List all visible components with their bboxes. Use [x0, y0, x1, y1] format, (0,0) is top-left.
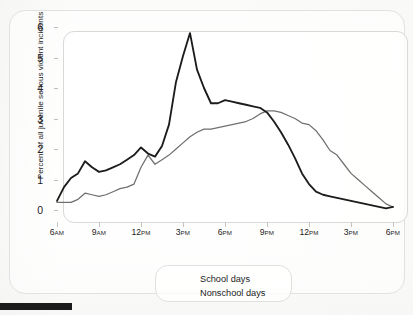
y-tick-mark — [54, 58, 58, 59]
y-tick-mark — [54, 149, 58, 150]
y-tick-mark — [54, 119, 58, 120]
y-tick-label: 2 — [17, 143, 43, 155]
x-tick-mark — [225, 222, 226, 227]
figure-page: Percent of all juvenile serious violent … — [0, 0, 413, 315]
legend-label-school-days: School days — [200, 274, 250, 284]
legend-item-school-days: School days — [169, 272, 250, 285]
x-tick-label: 9PM — [260, 227, 274, 237]
y-tick-mark — [54, 210, 58, 211]
legend-label-nonschool-days: Nonschool days — [200, 288, 265, 298]
y-tick-mark — [54, 180, 58, 181]
y-tick-label: 0 — [17, 204, 43, 216]
plot-frame — [63, 31, 408, 223]
y-tick-label: 3 — [17, 113, 43, 125]
x-tick-mark — [309, 222, 310, 227]
y-tick-label: 1 — [17, 174, 43, 186]
x-tick-mark — [267, 222, 268, 227]
x-tick-mark — [57, 222, 58, 227]
y-tick-label: 6 — [17, 21, 43, 33]
x-tick-label: 6AM — [50, 227, 64, 237]
x-tick-mark — [141, 222, 142, 227]
x-tick-mark — [183, 222, 184, 227]
y-tick-mark — [54, 88, 58, 89]
x-tick-label: 12PM — [299, 227, 318, 237]
x-tick-mark — [351, 222, 352, 227]
x-tick-label: 9AM — [92, 227, 106, 237]
x-tick-label: 6PM — [386, 227, 400, 237]
x-tick-mark — [393, 222, 394, 227]
x-tick-label: 12PM — [131, 227, 150, 237]
scan-edge-artifact — [0, 303, 72, 310]
x-tick-label: 3PM — [344, 227, 358, 237]
legend-box: School days Nonschool days — [155, 265, 292, 302]
x-tick-label: 6PM — [218, 227, 232, 237]
legend-item-nonschool-days: Nonschool days — [169, 286, 265, 299]
x-tick-label: 3PM — [176, 227, 190, 237]
y-tick-mark — [54, 27, 58, 28]
figure-card: Percent of all juvenile serious violent … — [9, 10, 405, 294]
y-axis-label: Percent of all juvenile serious violent … — [36, 8, 45, 184]
x-tick-mark — [99, 222, 100, 227]
y-tick-label: 4 — [17, 82, 43, 94]
y-tick-label: 5 — [17, 52, 43, 64]
